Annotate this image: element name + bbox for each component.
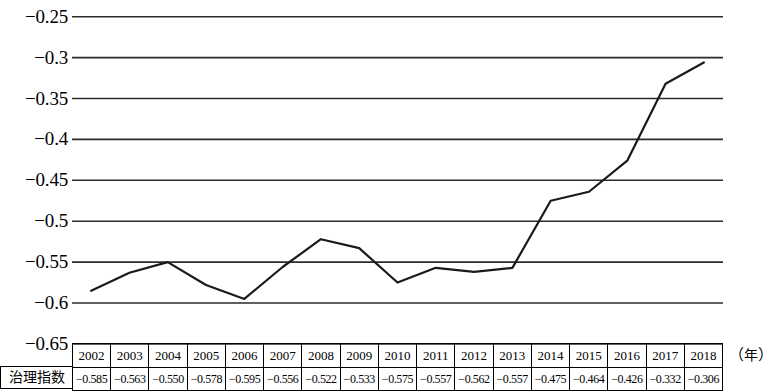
x-axis-unit-label: （年） [729, 348, 773, 363]
table-cell-year: 2010 [378, 344, 416, 368]
table-cell-year: 2011 [417, 344, 455, 368]
table-cell-value: −0.562 [455, 368, 493, 391]
table-cell-value: −0.557 [493, 368, 531, 391]
y-axis-tick-label: −0.35 [0, 89, 68, 108]
y-axis: −0.25−0.3−0.35−0.4−0.45−0.5−0.55−0.6−0.6… [0, 0, 68, 391]
y-axis-tick-label: −0.3 [0, 48, 68, 67]
unit-text: 年 [744, 347, 758, 363]
table-cell-year: 2013 [493, 344, 531, 368]
table-cell-year: 2009 [340, 344, 378, 368]
gridlines [72, 17, 723, 344]
line-chart-svg [72, 0, 723, 352]
unit-paren-close: ） [758, 347, 773, 363]
y-axis-tick-label: −0.4 [0, 129, 68, 148]
y-axis-tick-label: −0.55 [0, 252, 68, 271]
table-cell-value: −0.575 [378, 368, 416, 391]
table-row-header-label: 治理指数 [0, 366, 72, 389]
table-cell-year: 2008 [302, 344, 340, 368]
chart-figure: −0.25−0.3−0.35−0.4−0.45−0.5−0.55−0.6−0.6… [0, 0, 780, 391]
table-cell-value: −0.533 [340, 368, 378, 391]
table-cell-year: 2014 [531, 344, 569, 368]
plot-area [72, 0, 723, 352]
table-cell-year: 2003 [111, 344, 149, 368]
table-cell-year: 2017 [646, 344, 684, 368]
table-cell-year: 2012 [455, 344, 493, 368]
table-row-values: −0.585−0.563−0.550−0.578−0.595−0.556−0.5… [73, 368, 723, 391]
table-cell-value: −0.563 [111, 368, 149, 391]
y-axis-tick-label: −0.25 [0, 7, 68, 26]
table-cell-value: −0.464 [570, 368, 608, 391]
table-cell-year: 2007 [264, 344, 302, 368]
table-cell-value: −0.306 [684, 368, 722, 391]
y-axis-tick-label: −0.65 [0, 334, 68, 353]
table-cell-year: 2015 [570, 344, 608, 368]
table-cell-value: −0.595 [225, 368, 263, 391]
unit-paren-open: （ [729, 347, 744, 363]
table-cell-value: −0.426 [608, 368, 646, 391]
table-cell-year: 2018 [684, 344, 722, 368]
table-cell-year: 2005 [187, 344, 225, 368]
table-cell-value: −0.550 [149, 368, 187, 391]
data-table-container: 2002200320042005200620072008200920102011… [72, 343, 724, 391]
table-cell-year: 2002 [73, 344, 111, 368]
table-cell-value: −0.557 [417, 368, 455, 391]
table-cell-year: 2006 [225, 344, 263, 368]
table-cell-value: −0.332 [646, 368, 684, 391]
table-cell-year: 2004 [149, 344, 187, 368]
table-cell-value: −0.578 [187, 368, 225, 391]
y-axis-tick-label: −0.6 [0, 293, 68, 312]
data-table: 2002200320042005200620072008200920102011… [72, 343, 723, 391]
table-cell-value: −0.585 [73, 368, 111, 391]
table-cell-value: −0.556 [264, 368, 302, 391]
table-cell-year: 2016 [608, 344, 646, 368]
table-cell-value: −0.522 [302, 368, 340, 391]
table-row-years: 2002200320042005200620072008200920102011… [73, 344, 723, 368]
y-axis-tick-label: −0.5 [0, 211, 68, 230]
table-cell-value: −0.475 [531, 368, 569, 391]
y-axis-tick-label: −0.45 [0, 170, 68, 189]
